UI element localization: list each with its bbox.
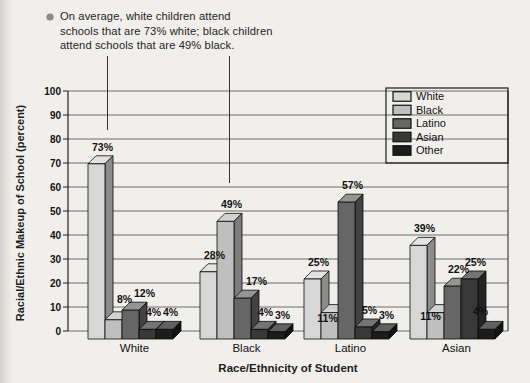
value-label: 3%: [379, 309, 395, 321]
value-label: 4%: [473, 305, 489, 317]
y-tick-label: 50: [50, 206, 62, 217]
category-label-asian: Asian: [442, 342, 471, 354]
value-label: 25%: [308, 256, 330, 268]
value-label: 73%: [92, 141, 114, 153]
value-label: 5%: [362, 304, 378, 316]
value-label: 4%: [146, 306, 162, 318]
value-label: 11%: [420, 310, 441, 322]
category-label-white: White: [120, 342, 149, 354]
y-tick-label: 30: [50, 254, 62, 265]
value-label: 25%: [465, 256, 487, 268]
value-label: 12%: [134, 287, 156, 299]
value-label: 39%: [414, 222, 436, 234]
y-tick-label: 0: [55, 326, 61, 337]
x-axis-title: Race/Ethnicity of Student: [68, 362, 508, 374]
annotation-callout-lines: [108, 56, 230, 183]
y-tick-label: 60: [50, 182, 62, 193]
category-label-latino: Latino: [335, 342, 366, 354]
legend-label-black: Black: [416, 104, 443, 116]
y-tick-label: 100: [44, 86, 61, 97]
legend-swatch-white: [393, 92, 411, 102]
category-label-black: Black: [232, 342, 260, 354]
y-tick-label: 40: [50, 230, 62, 241]
value-label: 8%: [117, 293, 133, 305]
legend: WhiteBlackLatinoAsianOther: [386, 88, 508, 163]
y-tick-label: 70: [50, 158, 62, 169]
legend-swatch-latino: [393, 119, 411, 129]
y-tick-label: 10: [50, 302, 62, 313]
y-tick-label: 80: [50, 134, 62, 145]
legend-label-other: Other: [416, 144, 444, 156]
value-label: 57%: [342, 179, 364, 191]
value-label: 11%: [317, 312, 338, 324]
value-label: 49%: [221, 198, 243, 210]
grouped-bar-chart: 0102030405060708090100WhiteBlackLatinoAs…: [0, 0, 530, 383]
legend-swatch-black: [393, 105, 411, 115]
y-axis-title: Racial/Ethnic Makeup of School (percent): [14, 105, 26, 321]
y-tick-label: 90: [50, 110, 62, 121]
legend-swatch-asian: [393, 132, 411, 142]
legend-label-latino: Latino: [416, 117, 446, 129]
value-label: 17%: [246, 275, 268, 287]
legend-label-asian: Asian: [416, 131, 444, 143]
value-label: 4%: [258, 306, 274, 318]
legend-swatch-other: [393, 146, 411, 156]
bar-latino-latino: [338, 194, 363, 339]
value-label: 4%: [163, 306, 179, 318]
bar-white-white: [88, 156, 113, 339]
value-label: 3%: [275, 309, 291, 321]
value-label: 28%: [204, 249, 226, 261]
legend-label-white: White: [416, 90, 444, 102]
figure-page: On average, white children attend school…: [0, 0, 530, 383]
category-labels: WhiteBlackLatinoAsian: [120, 342, 471, 354]
y-tick-label: 20: [50, 278, 62, 289]
